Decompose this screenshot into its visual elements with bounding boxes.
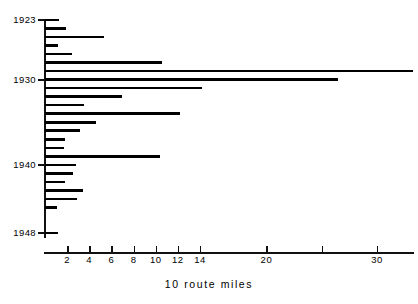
bar (45, 36, 104, 39)
x-axis-tick (377, 246, 378, 252)
x-axis-tick-label: 2 (64, 254, 70, 265)
x-axis-tick (67, 246, 68, 252)
bar (45, 232, 58, 235)
bar (45, 121, 96, 124)
x-axis-title: 10 route miles (0, 278, 418, 290)
y-axis-tick-label: 1930 (2, 75, 36, 84)
bar-chart: 1923193019401948 24681012142030 10 route… (0, 0, 418, 304)
bar (45, 95, 122, 98)
bar (45, 61, 162, 64)
bar (45, 206, 57, 209)
x-axis-tick (178, 246, 179, 252)
bar (45, 27, 66, 30)
x-axis-tick (89, 246, 90, 252)
x-axis-tick-label: 14 (194, 254, 206, 265)
bar (45, 181, 65, 184)
bar (45, 189, 83, 192)
x-axis-tick (111, 246, 112, 252)
x-axis-tick (156, 246, 157, 252)
x-axis-tick (134, 246, 135, 252)
x-axis-tick-label: 12 (172, 254, 184, 265)
bar (45, 198, 77, 201)
bar (45, 164, 76, 167)
bar (45, 138, 65, 141)
y-axis-tick-label: 1923 (2, 15, 36, 24)
bar (45, 44, 58, 47)
x-axis-minor-tick (322, 246, 323, 252)
bar (45, 78, 338, 81)
y-axis-tick-label: 1948 (2, 228, 36, 237)
bar (45, 155, 160, 158)
bar (45, 53, 72, 56)
x-axis-tick-label: 20 (261, 254, 273, 265)
x-axis-tick-label: 6 (109, 254, 115, 265)
bar (45, 19, 59, 22)
bar (45, 147, 64, 150)
y-axis-tick-label: 1940 (2, 160, 36, 169)
bar (45, 172, 73, 175)
bar (45, 129, 80, 132)
x-axis-tick-label: 8 (131, 254, 137, 265)
x-axis-tick-label: 10 (150, 254, 162, 265)
bar (45, 112, 180, 115)
bar (45, 70, 413, 73)
x-axis-tick (266, 246, 267, 252)
x-axis-line (44, 252, 414, 254)
bar (45, 104, 84, 107)
x-axis-tick-label: 4 (86, 254, 92, 265)
x-axis-tick-label: 30 (371, 254, 383, 265)
bar (45, 87, 202, 90)
x-axis-tick (200, 246, 201, 252)
